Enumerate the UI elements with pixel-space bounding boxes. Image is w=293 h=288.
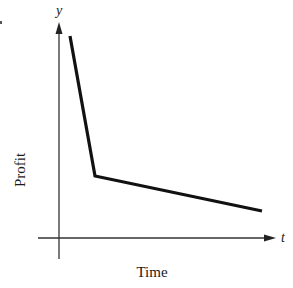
- stray-mark: [0, 21, 2, 24]
- profit-line: [70, 36, 262, 211]
- y-axis-arrow-icon: [56, 22, 63, 34]
- x-axis: [38, 235, 276, 242]
- y-axis: [56, 22, 63, 259]
- x-axis-arrow-icon: [264, 235, 276, 242]
- chart-canvas: [0, 0, 293, 288]
- x-axis-title: Time: [136, 264, 167, 281]
- y-axis-title: Profit: [12, 153, 29, 187]
- x-axis-variable: t: [281, 230, 285, 246]
- y-axis-variable: y: [56, 3, 62, 19]
